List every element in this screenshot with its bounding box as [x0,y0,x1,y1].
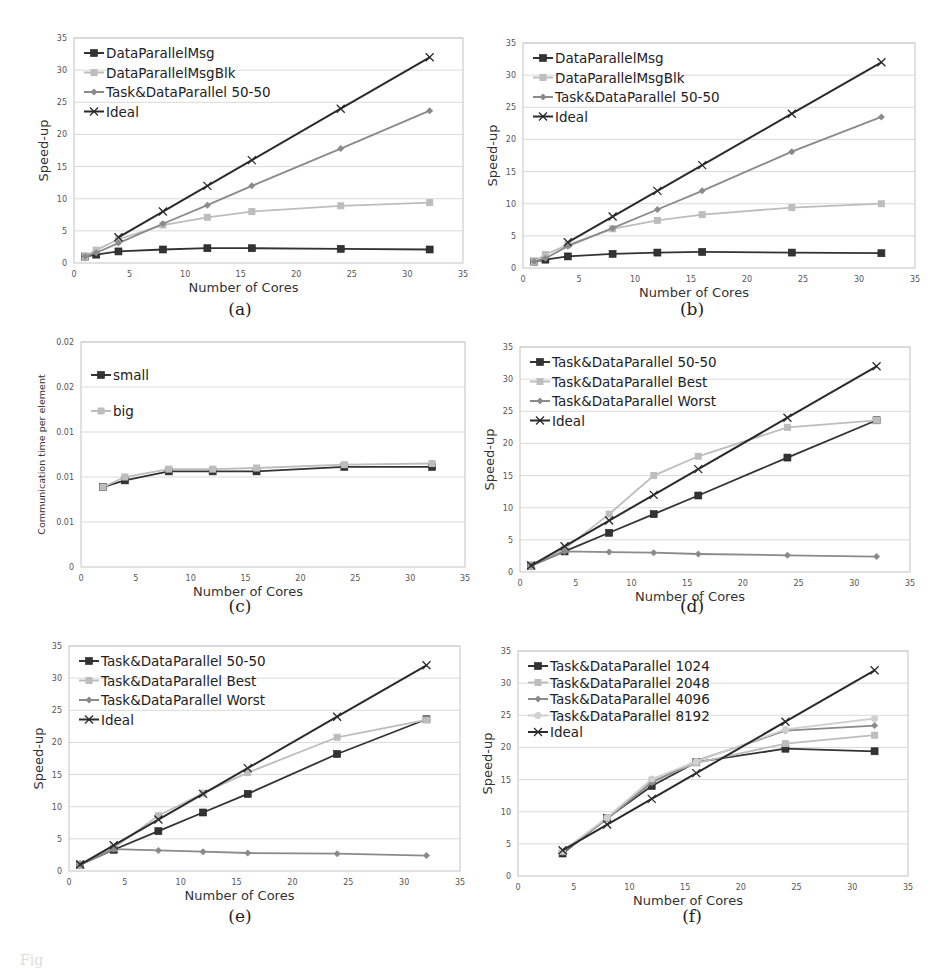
square-marker [782,740,789,747]
circle-marker [871,715,878,722]
x-marker [781,718,789,726]
x-marker [648,795,656,803]
y-tick-label: 0 [506,872,511,881]
series-line [563,749,875,854]
x-tick-label: 20 [736,883,746,892]
y-axis-label: Speed-up [480,733,495,795]
legend-label: Ideal [550,724,583,740]
y-tick-label: 10 [501,808,511,817]
caption-c: (c) [229,596,252,616]
series-task-dataparallel-1024 [559,745,878,857]
x-marker [692,769,700,777]
legend-item: Task&DataParallel 1024 [528,658,710,674]
legend-item: Ideal [528,724,583,740]
legend: Task&DataParallel 1024Task&DataParallel … [528,658,710,740]
series-line [563,726,875,853]
y-tick-label: 20 [501,743,511,752]
x-tick-label: 15 [680,883,690,892]
circle-marker [535,712,542,719]
legend-item: Task&DataParallel 4096 [528,691,710,707]
y-tick-label: 15 [501,776,511,785]
caption-d: (d) [680,596,704,616]
legend-item: Task&DataParallel 2048 [528,675,710,691]
caption-f: (f) [682,906,702,926]
series-line [563,719,875,851]
y-tick-label: 35 [501,647,511,656]
legend-label: Task&DataParallel 8192 [549,708,710,724]
caption-a: (a) [228,299,251,319]
square-marker [535,679,542,686]
x-tick-label: 25 [791,883,801,892]
caption-b: (b) [680,299,704,319]
y-tick-label: 5 [506,840,511,849]
circle-marker [782,726,789,733]
chart-f: 0510152025303505101520253035Number of Co… [0,0,945,971]
series-task-dataparallel-8192 [559,715,878,854]
x-tick-label: 0 [515,883,520,892]
x-tick-label: 5 [571,883,576,892]
square-marker [535,663,542,670]
legend-label: Task&DataParallel 1024 [549,658,710,674]
series-task-dataparallel-4096 [559,722,878,856]
y-tick-label: 30 [501,679,511,688]
square-marker [871,732,878,739]
x-tick-label: 10 [624,883,634,892]
circle-marker [648,775,655,782]
diamond-marker [871,722,878,729]
legend-item: Task&DataParallel 8192 [528,708,710,724]
x-marker [871,666,879,674]
x-tick-label: 35 [903,883,913,892]
diamond-marker [535,696,542,703]
y-tick-label: 25 [501,711,511,720]
x-tick-label: 30 [847,883,857,892]
caption-e: (e) [228,906,251,926]
legend-label: Task&DataParallel 4096 [549,691,710,707]
square-marker [871,748,878,755]
circle-marker [693,758,700,765]
circle-marker [604,814,611,821]
bleed-through-text: Fig [20,952,43,968]
legend-label: Task&DataParallel 2048 [549,675,710,691]
